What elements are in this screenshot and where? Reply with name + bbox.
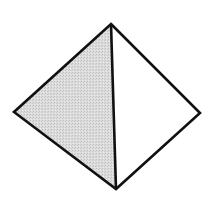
left-face-shaded	[14, 24, 116, 189]
right-face-white	[111, 24, 200, 189]
pyramid-diagram	[0, 0, 219, 205]
